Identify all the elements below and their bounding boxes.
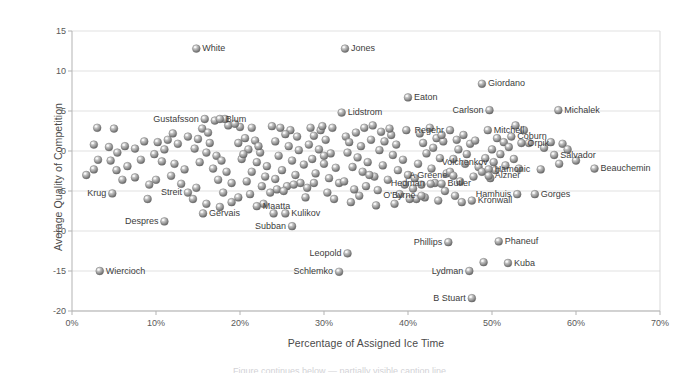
data-point-label: Phillips — [414, 237, 443, 247]
data-point-marker — [307, 124, 315, 132]
data-point-marker — [246, 190, 254, 198]
labeled-data-point-marker — [96, 267, 104, 275]
data-point-marker — [192, 184, 200, 192]
data-point-marker — [145, 181, 153, 189]
data-point-marker — [281, 130, 289, 138]
data-point-marker — [113, 166, 121, 174]
data-point-marker — [203, 149, 211, 157]
data-point-label: Hedman — [391, 178, 425, 188]
y-tick-label: 5 — [40, 106, 66, 116]
data-point-marker — [392, 141, 400, 149]
data-point-marker — [344, 149, 352, 157]
data-point-label: Wiercioch — [106, 266, 146, 276]
data-point-marker — [423, 150, 431, 158]
x-axis-title: Percentage of Assigned Ice Time — [72, 337, 660, 349]
data-point-label: Jones — [351, 43, 375, 53]
data-point-marker — [189, 195, 197, 203]
labeled-data-point-marker — [253, 202, 261, 210]
y-tick-label: -10 — [40, 226, 66, 236]
data-point-marker — [374, 186, 382, 194]
data-point-marker — [167, 172, 175, 180]
data-point-marker — [174, 140, 182, 148]
labeled-data-point-marker — [504, 259, 512, 267]
labeled-data-point-marker — [192, 45, 200, 53]
data-point-marker — [497, 150, 505, 158]
data-point-marker — [154, 138, 162, 146]
labeled-data-point-marker — [161, 218, 169, 226]
y-tick-label: -15 — [40, 266, 66, 276]
data-point-marker — [275, 152, 283, 160]
data-point-marker — [203, 200, 211, 208]
data-point-label: Schlemko — [294, 266, 334, 276]
x-tick-label: 60% — [556, 318, 596, 328]
data-point-marker — [239, 150, 247, 158]
data-point-marker — [308, 155, 316, 163]
labeled-data-point-marker — [427, 180, 435, 188]
data-point-marker — [266, 189, 274, 197]
data-point-marker — [323, 189, 331, 197]
y-tick-label: -5 — [40, 186, 66, 196]
data-point-label: Gervais — [209, 208, 240, 218]
data-point-label: Butler — [448, 178, 472, 188]
labeled-data-point-marker — [216, 115, 224, 123]
data-point-marker — [82, 171, 90, 179]
labeled-data-point-marker — [446, 126, 454, 134]
data-point-marker — [234, 139, 242, 147]
x-tick-label: 50% — [472, 318, 512, 328]
data-point-marker — [140, 138, 148, 146]
labeled-data-point-marker — [531, 190, 539, 198]
data-point-marker — [354, 154, 362, 162]
data-point-marker — [121, 142, 129, 150]
data-point-marker — [394, 166, 402, 174]
data-point-marker — [94, 156, 102, 164]
data-point-marker — [280, 187, 288, 195]
data-point-marker — [377, 128, 385, 136]
data-point-marker — [367, 136, 375, 144]
data-point-label: Carlson — [452, 105, 483, 115]
data-point-marker — [214, 176, 222, 184]
data-point-marker — [110, 125, 118, 133]
data-point-marker — [350, 186, 358, 194]
data-point-marker — [292, 171, 300, 179]
y-tick-label: 0 — [40, 146, 66, 156]
x-tick-label: 10% — [136, 318, 176, 328]
data-point-label: Kulikov — [291, 208, 320, 218]
data-point-marker — [302, 194, 310, 202]
data-point-marker — [297, 179, 305, 187]
data-point-marker — [184, 133, 192, 141]
data-point-marker — [261, 173, 269, 181]
data-point-marker — [362, 182, 370, 190]
data-point-marker — [268, 122, 276, 130]
x-tick-label: 0% — [52, 318, 92, 328]
data-point-marker — [391, 200, 399, 208]
data-point-label: Michalek — [564, 105, 600, 115]
data-point-marker — [429, 144, 437, 152]
labeled-data-point-marker — [478, 80, 486, 88]
data-point-marker — [113, 149, 121, 157]
y-tick-label: 10 — [40, 66, 66, 76]
y-tick-label: -20 — [40, 306, 66, 316]
labeled-data-point-marker — [404, 94, 412, 102]
data-point-marker — [295, 146, 303, 154]
data-point-marker — [278, 166, 286, 174]
data-point-marker — [455, 146, 463, 154]
data-point-marker — [332, 164, 340, 172]
data-point-marker — [228, 198, 236, 206]
labeled-data-point-marker — [485, 172, 493, 180]
data-point-marker — [488, 146, 496, 154]
data-point-marker — [434, 197, 442, 205]
data-point-marker — [144, 195, 152, 203]
x-tick-label: 30% — [304, 318, 344, 328]
labeled-data-point-marker — [591, 165, 599, 173]
data-point-marker — [161, 146, 169, 154]
data-point-marker — [241, 134, 249, 142]
data-point-marker — [253, 158, 261, 166]
data-point-label: Subban — [255, 221, 286, 231]
data-point-marker — [255, 142, 263, 150]
labeled-data-point-marker — [495, 238, 503, 246]
data-point-marker — [399, 156, 407, 164]
data-point-marker — [293, 133, 301, 141]
data-point-marker — [204, 129, 212, 137]
labeled-data-point-marker — [341, 45, 349, 53]
data-point-label: Blum — [226, 114, 247, 124]
